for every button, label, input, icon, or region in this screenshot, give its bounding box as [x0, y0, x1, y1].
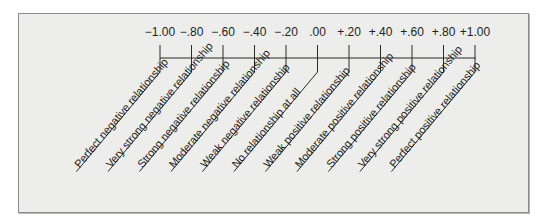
scale-tick: +1.00Perfect positive relationship [387, 25, 491, 172]
tick-value-label: −1.00 [145, 25, 176, 39]
tick-value-label: −.40 [243, 25, 267, 39]
tick-value-label: .00 [309, 25, 326, 39]
correlation-scale-diagram: −1.00Perfect negative relationship−.80Ve… [0, 0, 549, 223]
tick-value-label: −.80 [180, 25, 204, 39]
tick-value-label: +1.00 [460, 25, 491, 39]
tick-value-label: +.80 [432, 25, 456, 39]
tick-value-label: +.20 [337, 25, 361, 39]
tick-value-label: −.20 [274, 25, 298, 39]
tick-value-label: +.40 [369, 25, 393, 39]
tick-value-label: +.60 [400, 25, 424, 39]
tick-value-label: −.60 [211, 25, 235, 39]
